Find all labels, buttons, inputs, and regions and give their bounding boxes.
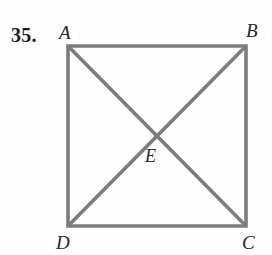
vertex-label-e: E [145, 147, 156, 165]
vertex-label-a: A [59, 23, 71, 42]
square-diagram [0, 0, 272, 255]
vertex-label-b: B [246, 21, 258, 40]
figure-page: 35. A B C D E [0, 0, 272, 255]
geometry-group [68, 46, 246, 226]
vertex-label-d: D [56, 233, 70, 252]
vertex-label-c: C [242, 233, 255, 252]
